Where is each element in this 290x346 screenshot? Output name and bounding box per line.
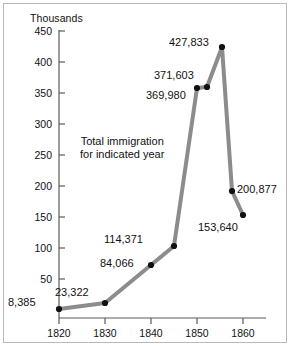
y-tick-label-50: 50 <box>24 273 52 285</box>
y-tick-label-250: 250 <box>24 149 52 161</box>
data-label-1840: 84,066 <box>100 257 134 269</box>
data-label-1845: 114,371 <box>104 233 143 245</box>
data-label-1852: 371,603 <box>154 69 194 81</box>
y-tick-label-100: 100 <box>24 242 52 254</box>
data-point-1845 <box>171 243 177 249</box>
immigration-line-chart: Thousands 450 400 350 300 250 200 150 10… <box>0 0 290 346</box>
data-label-1830: 23,322 <box>55 286 89 298</box>
y-tick-label-150: 150 <box>24 211 52 223</box>
x-tick-label-1850: 1850 <box>179 327 215 339</box>
x-tick-marks <box>59 318 243 324</box>
immigration-series-line <box>59 47 243 309</box>
chart-canvas <box>0 0 290 346</box>
data-label-1820: 8,385 <box>8 296 36 308</box>
x-tick-label-1860: 1860 <box>225 327 261 339</box>
x-tick-label-1830: 1830 <box>87 327 123 339</box>
x-tick-label-1820: 1820 <box>41 327 77 339</box>
y-tick-label-400: 400 <box>24 56 52 68</box>
data-point-1820 <box>56 306 62 312</box>
annotation-line-2: for indicated year <box>80 148 164 161</box>
x-tick-label-1840: 1840 <box>133 327 169 339</box>
data-label-1857: 200,877 <box>237 183 277 195</box>
data-point-1860 <box>240 212 246 218</box>
immigration-series-markers <box>56 44 246 312</box>
y-axis-title: Thousands <box>30 12 83 24</box>
data-label-1855: 427,833 <box>169 36 209 48</box>
y-tick-label-450: 450 <box>24 25 52 37</box>
y-tick-label-300: 300 <box>24 118 52 130</box>
data-point-1840 <box>148 262 154 268</box>
data-point-1857 <box>229 188 235 194</box>
data-point-1830 <box>102 300 108 306</box>
annotation-line-1: Total immigration <box>80 135 164 148</box>
y-tick-label-350: 350 <box>24 87 52 99</box>
chart-annotation: Total immigration for indicated year <box>80 135 164 161</box>
data-point-1852 <box>204 84 210 90</box>
y-tick-label-200: 200 <box>24 180 52 192</box>
data-point-1850 <box>194 85 200 91</box>
data-label-1850: 369,980 <box>146 89 186 101</box>
data-point-1855 <box>219 44 225 50</box>
y-tick-marks <box>59 31 65 279</box>
data-label-1860: 153,640 <box>198 221 238 233</box>
